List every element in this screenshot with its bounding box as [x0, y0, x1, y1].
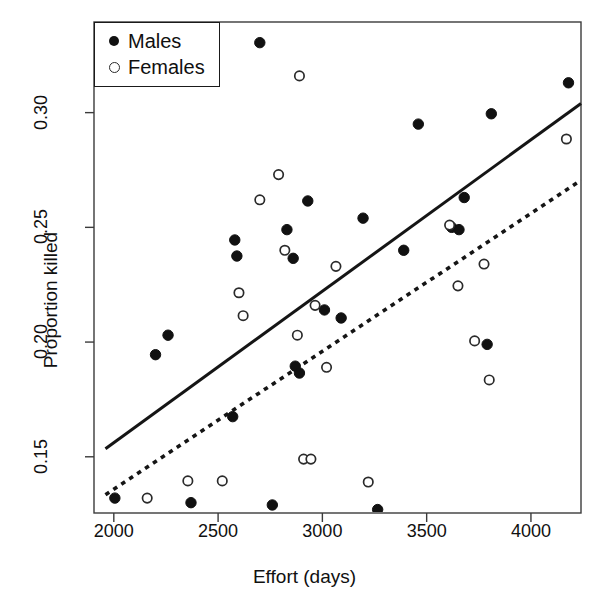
data-point-male [150, 349, 160, 359]
data-point-female [274, 170, 283, 179]
data-point-male [163, 330, 173, 340]
data-point-male [482, 339, 492, 349]
data-point-female [142, 493, 151, 502]
legend-item-females: Females [104, 54, 205, 80]
data-point-male [459, 192, 469, 202]
data-point-male [267, 500, 277, 510]
data-point-female [295, 71, 304, 80]
data-point-male [232, 251, 242, 261]
data-point-female [470, 336, 479, 345]
data-point-male [399, 245, 409, 255]
legend-label-males: Males [128, 30, 181, 53]
x-tick-label: 2000 [79, 521, 149, 542]
data-point-female [306, 454, 315, 463]
trend-line-males [105, 103, 581, 448]
data-point-female [183, 476, 192, 485]
data-point-female [293, 330, 302, 339]
data-point-female [331, 262, 340, 271]
data-point-male [303, 196, 313, 206]
plot-canvas [0, 0, 609, 603]
filled-circle-icon [104, 36, 124, 46]
y-tick-label: 0.20 [31, 307, 52, 377]
data-point-male [563, 78, 573, 88]
data-point-female [310, 301, 319, 310]
x-tick-label: 2500 [183, 521, 253, 542]
data-point-male [110, 493, 120, 503]
data-point-female [218, 476, 227, 485]
x-tick-label: 3500 [392, 521, 462, 542]
legend-label-females: Females [128, 56, 205, 79]
data-point-female [364, 477, 373, 486]
data-point-female [255, 195, 264, 204]
data-point-male [358, 213, 368, 223]
data-point-male [288, 253, 298, 263]
data-point-female [445, 220, 454, 229]
chart-legend: Males Females [94, 22, 220, 87]
scatter-plot-figure: Proportion killed Effort (days) 20002500… [0, 0, 609, 603]
data-point-female [453, 281, 462, 290]
data-point-female [485, 375, 494, 384]
data-point-female [238, 311, 247, 320]
y-tick-label: 0.25 [31, 192, 52, 262]
data-point-male [294, 368, 304, 378]
y-tick-label: 0.30 [31, 77, 52, 147]
data-point-male [319, 305, 329, 315]
x-tick-label: 3000 [287, 521, 357, 542]
data-point-female [234, 288, 243, 297]
data-point-female [479, 259, 488, 268]
x-axis-title: Effort (days) [0, 566, 609, 588]
data-point-male [486, 109, 496, 119]
data-point-male [230, 235, 240, 245]
data-point-male [255, 37, 265, 47]
data-point-male [186, 497, 196, 507]
trend-line-females [105, 180, 581, 494]
legend-item-males: Males [104, 28, 205, 54]
data-point-male [227, 411, 237, 421]
data-point-female [562, 134, 571, 143]
data-point-male [454, 224, 464, 234]
data-point-male [336, 313, 346, 323]
data-point-male [413, 119, 423, 129]
data-point-female [280, 246, 289, 255]
data-point-male [282, 224, 292, 234]
open-circle-icon [104, 62, 124, 73]
y-tick-label: 0.15 [31, 421, 52, 491]
x-tick-label: 4000 [496, 521, 566, 542]
data-point-female [322, 363, 331, 372]
